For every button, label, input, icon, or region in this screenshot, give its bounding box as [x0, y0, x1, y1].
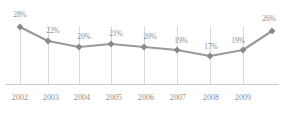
- x-tick-label: 2007: [170, 94, 186, 102]
- data-point-marker: [207, 53, 214, 60]
- data-label: 28%: [13, 11, 26, 19]
- x-tick-label: 2009: [235, 94, 251, 102]
- data-label: 19%: [174, 37, 187, 45]
- data-point-marker: [45, 38, 52, 45]
- line-chart: 28% 22% 20% 21% 20% 19% 17% 19% 26% 2002…: [0, 0, 285, 115]
- data-label: 17%: [204, 43, 217, 51]
- x-tick-label: 2005: [106, 94, 122, 102]
- x-tick-label: 2003: [43, 94, 59, 102]
- x-tick-label: 2004: [74, 94, 90, 102]
- data-label: 21%: [109, 30, 122, 38]
- x-tick-label: 2002: [12, 94, 28, 102]
- x-tick-label: 2006: [138, 94, 154, 102]
- data-label: 26%: [262, 15, 275, 23]
- data-label: 19%: [231, 37, 244, 45]
- data-point-marker: [108, 41, 115, 48]
- data-label: 20%: [77, 33, 90, 41]
- data-point-marker: [141, 44, 148, 51]
- data-point-marker: [76, 44, 83, 51]
- data-label: 20%: [143, 33, 156, 41]
- data-point-marker: [17, 24, 24, 31]
- data-point-marker: [174, 47, 181, 54]
- x-tick-label: 2008: [203, 94, 219, 102]
- data-label: 22%: [46, 27, 59, 35]
